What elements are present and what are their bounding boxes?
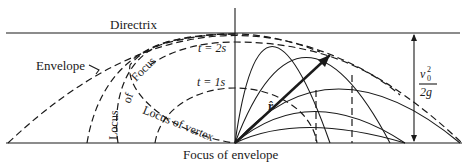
- projectile-envelope-diagram: Directrix Envelope Locus of Focus Locus …: [0, 0, 472, 163]
- trajectory-shallow: [235, 128, 405, 144]
- time-1s-label: t = 1s: [197, 75, 225, 89]
- locus-of-vertex-label: Locus of vertex: [141, 103, 216, 144]
- locus-of-focus-label-part3: Focus: [128, 54, 158, 84]
- envelope-label: Envelope: [36, 58, 85, 73]
- unit-vector-label: r̂: [268, 99, 274, 113]
- height-arrow-top-icon: [411, 34, 417, 41]
- height-numerator-sub: 0: [427, 74, 431, 83]
- locus-of-focus-label-part2: of: [120, 91, 137, 105]
- directrix-label: Directrix: [110, 17, 157, 32]
- height-denominator: 2g: [420, 85, 432, 99]
- height-numerator-sup: 2: [427, 65, 431, 74]
- locus-of-focus-label-part1: Locus: [106, 110, 121, 140]
- height-numerator: v: [420, 67, 426, 81]
- focus-of-envelope-label: Focus of envelope: [183, 147, 279, 162]
- time-2s-curve: [150, 42, 400, 95]
- height-arrow-bottom-icon: [411, 135, 417, 142]
- envelope-pointer: [89, 65, 99, 74]
- time-2s-label: t = 2s: [198, 41, 226, 55]
